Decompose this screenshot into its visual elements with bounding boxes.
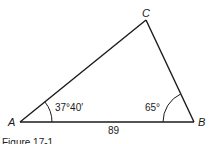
triangle-figure: C A B 37°40′ 65° 89 Figure 17-1: [0, 0, 210, 144]
vertex-label-a: A: [8, 117, 15, 128]
angle-label-b: 65°: [145, 103, 160, 113]
angle-arc-a: [45, 102, 52, 122]
angle-label-a: 37°40′: [55, 103, 83, 113]
vertex-label-b: B: [198, 117, 205, 128]
figure-caption: Figure 17-1: [2, 138, 53, 144]
angle-arc-b: [163, 94, 181, 122]
triangle-diagram: [0, 0, 210, 144]
vertex-label-c: C: [142, 8, 150, 19]
side-label-ab: 89: [108, 126, 119, 136]
